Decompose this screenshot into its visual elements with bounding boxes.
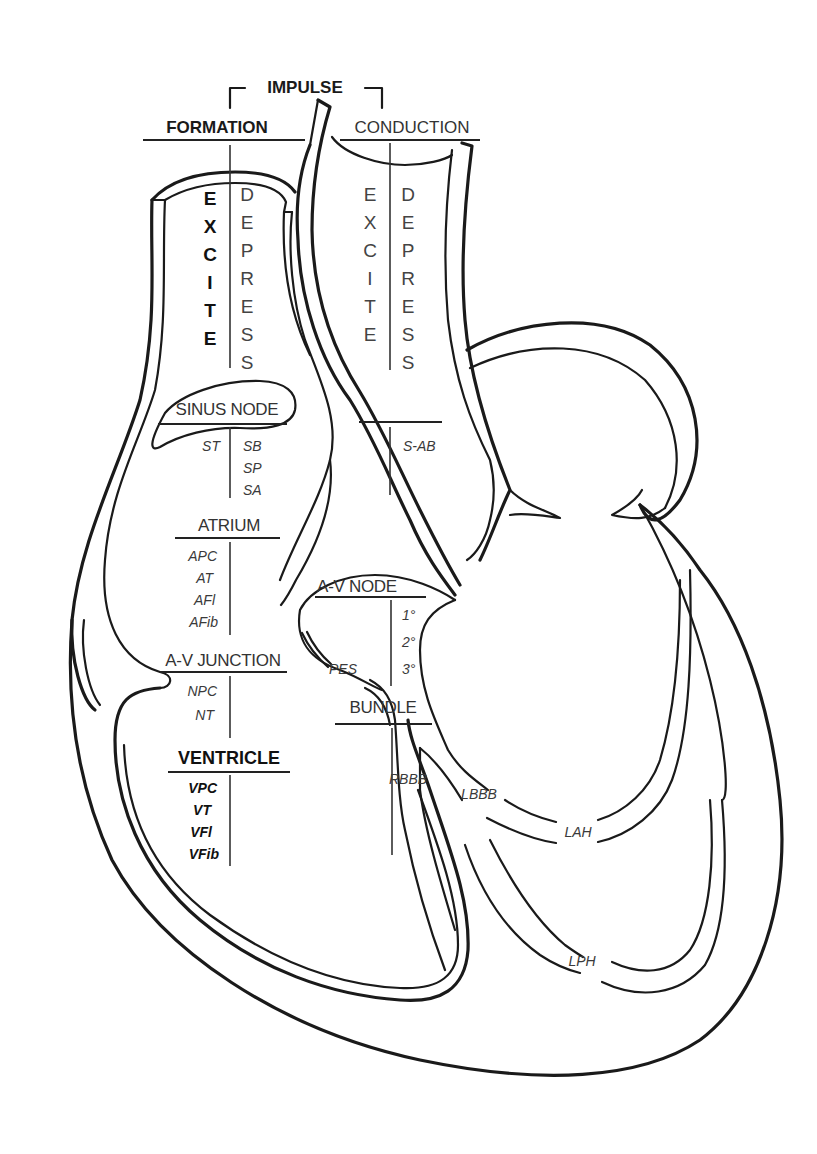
formation-depress-letters: D E P R E S S [240, 184, 254, 373]
av-node-label: A-V NODE [317, 577, 397, 596]
svg-text:R: R [240, 268, 254, 289]
st-label: ST [202, 438, 221, 454]
rbbb-label: RBBB [389, 771, 427, 787]
bundle-label: BUNDLE [349, 698, 416, 717]
svg-text:I: I [207, 272, 212, 293]
svg-text:S: S [241, 352, 254, 373]
pes-label: PES [329, 661, 358, 677]
formation-excite-letters: E X C I T E [203, 188, 217, 349]
svg-text:R: R [401, 268, 415, 289]
second-degree-label: 2° [401, 634, 416, 650]
sb-label: SB [243, 438, 262, 454]
lah-label: LAH [564, 824, 592, 840]
afl-label: AFl [193, 592, 216, 608]
conduction-excite-letters: E X C I T E [363, 184, 377, 345]
svg-text:C: C [203, 244, 217, 265]
svg-text:C: C [363, 240, 377, 261]
formation-label: FORMATION [166, 118, 268, 137]
nt-label: NT [195, 707, 215, 723]
av-node-section: A-V NODE 1° 2° 3° PES [315, 577, 426, 686]
vt-label: VT [193, 802, 212, 818]
svg-text:S: S [402, 352, 415, 373]
sa-label: SA [243, 482, 262, 498]
av-junction-label: A-V JUNCTION [165, 651, 280, 670]
atrium-label: ATRIUM [198, 516, 260, 535]
svg-text:P: P [402, 240, 415, 261]
svg-text:X: X [204, 216, 217, 237]
svg-text:E: E [241, 296, 254, 317]
vfib-label: VFib [189, 846, 220, 862]
first-degree-label: 1° [402, 607, 416, 623]
vfl-label: VFl [190, 824, 213, 840]
svg-text:E: E [204, 188, 217, 209]
impulse-label: IMPULSE [267, 78, 343, 97]
svg-text:X: X [364, 212, 377, 233]
bundle-section: BUNDLE RBBB LBBB LAH LPH [335, 698, 597, 969]
afib-label: AFib [188, 614, 218, 630]
svg-text:D: D [401, 184, 415, 205]
svg-text:E: E [364, 324, 377, 345]
sinus-node-section: SINUS NODE ST SB SP SA S-AB [152, 381, 442, 498]
at-label: AT [195, 570, 214, 586]
svg-text:T: T [364, 296, 376, 317]
svg-text:E: E [204, 328, 217, 349]
heart-conduction-diagram: IMPULSE FORMATION CONDUCTION E X C I T E… [0, 0, 817, 1154]
svg-text:S: S [241, 324, 254, 345]
conduction-column: E X C I T E D E P R E S S [363, 143, 415, 373]
ventricle-section: VENTRICLE VPC VT VFl VFib [168, 748, 290, 866]
s-ab-label: S-AB [403, 438, 436, 454]
atrium-section: ATRIUM APC AT AFl AFib [175, 516, 280, 635]
svg-text:E: E [241, 212, 254, 233]
third-degree-label: 3° [402, 661, 416, 677]
lbbb-label: LBBB [461, 786, 497, 802]
sp-label: SP [243, 460, 262, 476]
av-junction-section: A-V JUNCTION NPC NT [160, 651, 287, 738]
svg-text:P: P [241, 240, 254, 261]
svg-text:E: E [402, 212, 415, 233]
conduction-depress-letters: D E P R E S S [401, 184, 415, 373]
svg-text:E: E [402, 296, 415, 317]
vpc-label: VPC [188, 780, 218, 796]
heart-outline [70, 100, 782, 1075]
svg-text:E: E [364, 184, 377, 205]
apc-label: APC [187, 548, 218, 564]
formation-column: E X C I T E D E P R E S S [203, 145, 254, 373]
npc-label: NPC [187, 683, 217, 699]
sinus-node-label: SINUS NODE [176, 400, 279, 419]
lph-label: LPH [568, 953, 596, 969]
svg-text:T: T [204, 300, 216, 321]
svg-text:I: I [367, 268, 372, 289]
svg-text:S: S [402, 324, 415, 345]
conduction-label: CONDUCTION [354, 118, 469, 137]
ventricle-label: VENTRICLE [178, 748, 280, 768]
svg-text:D: D [240, 184, 254, 205]
